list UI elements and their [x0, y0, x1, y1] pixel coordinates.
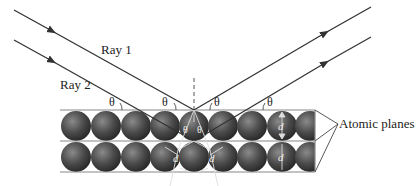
atom-row-top [61, 111, 325, 141]
ray-2-label: Ray 2 [60, 77, 91, 92]
ray-1-label: Ray 1 [101, 42, 132, 57]
theta-inner-left: θ [183, 124, 188, 135]
d-label-left: d [173, 152, 179, 164]
ray-1 [14, 7, 371, 110]
theta-label-3: θ [214, 95, 220, 109]
atom-row-bottom [61, 142, 325, 172]
d-label-spacing-2: d [278, 151, 284, 163]
theta-label-4: θ [267, 95, 273, 109]
theta-inner-right: θ [197, 124, 202, 135]
atomic-planes-label: Atomic planes [339, 116, 414, 131]
d-label-right: d [209, 152, 215, 164]
bragg-diagram: Ray 1 Ray 2 θ θ θ θ θ θ d d d d Atomic p… [0, 0, 416, 186]
d-label-spacing: d [278, 120, 284, 132]
theta-label-2: θ [162, 95, 168, 109]
theta-label-1: θ [109, 95, 115, 109]
